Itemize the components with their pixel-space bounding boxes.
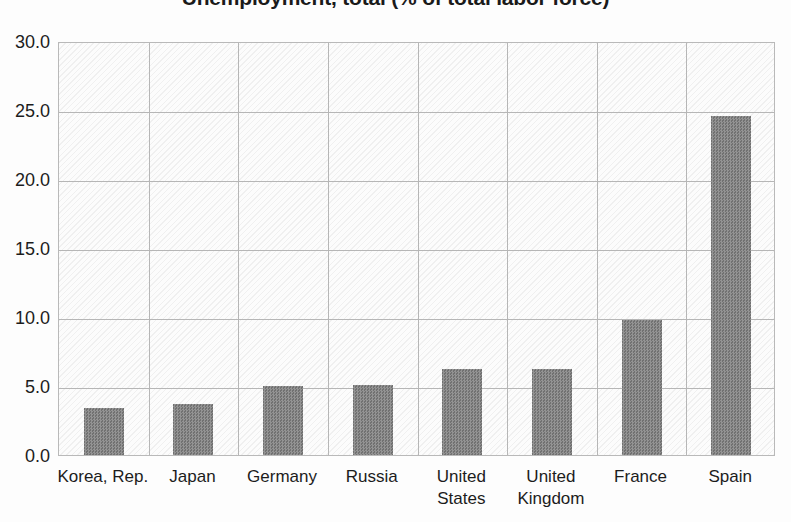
y-axis-tick-label: 15.0 bbox=[2, 239, 50, 260]
bar bbox=[442, 369, 482, 455]
x-axis-tick-labels: Korea, Rep.JapanGermanyRussiaUnited Stat… bbox=[58, 466, 775, 522]
plot-area bbox=[58, 42, 775, 456]
y-axis-tick-label: 0.0 bbox=[2, 446, 50, 467]
bar bbox=[263, 386, 303, 455]
bar bbox=[173, 404, 213, 455]
gridline-horizontal bbox=[59, 319, 774, 320]
gridline-vertical bbox=[597, 43, 598, 455]
gridline-vertical bbox=[328, 43, 329, 455]
x-axis-tick-label: Korea, Rep. bbox=[57, 466, 148, 488]
y-axis-tick-label: 30.0 bbox=[2, 32, 50, 53]
gridline-vertical bbox=[238, 43, 239, 455]
y-axis-tick-label: 10.0 bbox=[2, 308, 50, 329]
bar bbox=[532, 369, 572, 455]
y-axis-tick-label: 25.0 bbox=[2, 101, 50, 122]
gridline-vertical bbox=[149, 43, 150, 455]
bar bbox=[622, 320, 662, 455]
bar bbox=[711, 116, 751, 455]
gridline-vertical bbox=[418, 43, 419, 455]
chart-title: Unemployment, total (% of total labor fo… bbox=[0, 0, 791, 10]
y-axis-tick-label: 20.0 bbox=[2, 170, 50, 191]
x-axis-tick-label: United States bbox=[437, 466, 486, 510]
gridline-vertical bbox=[507, 43, 508, 455]
y-axis-tick-label: 5.0 bbox=[2, 377, 50, 398]
x-axis-tick-label: Germany bbox=[247, 466, 317, 488]
gridline-horizontal bbox=[59, 388, 774, 389]
x-axis-tick-label: Russia bbox=[346, 466, 398, 488]
x-axis-tick-label: Japan bbox=[169, 466, 215, 488]
x-axis-tick-label: France bbox=[614, 466, 667, 488]
x-axis-tick-label: United Kingdom bbox=[517, 466, 584, 510]
gridline-horizontal bbox=[59, 250, 774, 251]
gridline-horizontal bbox=[59, 181, 774, 182]
gridline-horizontal bbox=[59, 112, 774, 113]
bar bbox=[353, 385, 393, 455]
bar bbox=[84, 408, 124, 455]
chart-figure: Unemployment, total (% of total labor fo… bbox=[0, 0, 791, 522]
gridline-vertical bbox=[686, 43, 687, 455]
y-axis-tick-labels: 0.05.010.015.020.025.030.0 bbox=[0, 42, 50, 456]
x-axis-tick-label: Spain bbox=[708, 466, 751, 488]
